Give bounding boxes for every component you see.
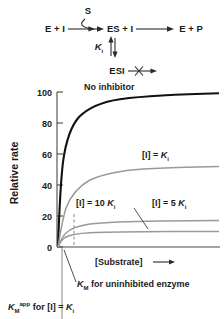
label-no-inhibitor: No inhibitor: [84, 82, 135, 92]
label-5ki-prefix: [I] = 5: [152, 198, 178, 208]
annotation-km-app: KMapp for [I] = Ki: [8, 301, 74, 314]
label-i-equals-10ki: [I] = 10 Ki: [76, 198, 116, 210]
curve-i-equals-10ki: [58, 231, 219, 247]
scheme-arrowhead-1: [97, 26, 104, 32]
y-tick-label-20: 20: [42, 212, 52, 222]
kinetics-chart-svg: 100 80 60 40 20 0 Relative rate: [0, 78, 224, 319]
leader-line-km-uninhibited: [64, 250, 76, 282]
scheme-node-esi: ESI: [109, 65, 124, 76]
scheme-node-substrate: S: [85, 5, 91, 16]
scheme-node-es-inhibitor: ES + I: [107, 23, 133, 34]
km-app-superscript: app: [20, 301, 31, 307]
reaction-scheme: E + I S ES + I E + P Ki ESI: [0, 0, 224, 78]
curve-no-inhibitor: [58, 93, 219, 247]
annotation-km-uninhibited: KM for uninhibited enzyme: [77, 279, 190, 291]
label-10ki-prefix: [I] = 10: [76, 198, 107, 208]
scheme-ki-subscript: i: [102, 48, 104, 54]
x-axis-arrowhead: [169, 260, 175, 265]
reaction-scheme-svg: E + I S ES + I E + P Ki ESI: [0, 0, 224, 78]
y-tick-label-0: 0: [47, 243, 52, 253]
x-axis-title: [Substrate]: [95, 257, 143, 267]
scheme-node-enzyme-product: E + P: [179, 23, 203, 34]
kinetics-chart: 100 80 60 40 20 0 Relative rate: [0, 78, 224, 319]
scheme-ki-label: Ki: [95, 41, 104, 54]
label-ki-prefix: [I] =: [142, 150, 161, 160]
scheme-arrowhead-no-reaction: [151, 68, 158, 73]
label-i-equals-5ki: [I] = 5 Ki: [152, 198, 187, 210]
scheme-arrowhead-substrate: [88, 26, 95, 31]
y-tick-label-60: 60: [42, 150, 52, 160]
label-5ki-sub: i: [185, 204, 187, 210]
y-axis-title: Relative rate: [8, 142, 20, 205]
km-uninhibited-rest: for uninhibited enzyme: [89, 279, 190, 289]
label-ki-sub: i: [167, 156, 169, 162]
label-10ki-sub: i: [114, 204, 116, 210]
y-tick-label-100: 100: [37, 88, 52, 98]
scheme-curved-arrow-substrate: [82, 19, 89, 28]
km-app-subscript: M: [15, 308, 20, 314]
scheme-node-enzyme-inhibitor: E + I: [45, 23, 65, 34]
x-axis-title-text: [Substrate]: [95, 257, 143, 267]
scheme-arrowhead-2: [167, 26, 174, 32]
y-tick-label-40: 40: [42, 181, 52, 191]
km-app-mid: for [I] =: [30, 302, 66, 312]
leader-line-10ki: [134, 208, 148, 229]
km-app-ki-subscript: i: [72, 308, 74, 314]
scheme-equilibrium-down-head: [112, 51, 117, 58]
scheme-equilibrium-up-head: [108, 36, 113, 43]
label-i-equals-ki: [I] = Ki: [142, 150, 169, 162]
y-tick-label-80: 80: [42, 119, 52, 129]
figure-container: E + I S ES + I E + P Ki ESI: [0, 0, 224, 319]
